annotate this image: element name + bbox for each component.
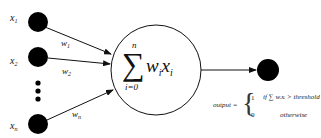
input-node-1 (28, 12, 48, 32)
input-label-x1: x1 (10, 13, 17, 24)
input-node-n (28, 114, 48, 134)
sum-lower-limit: i=0 (125, 82, 138, 92)
input-label-xn: xn (10, 121, 17, 132)
sum-expression: wixi (146, 55, 173, 78)
weight-label-w2: w2 (62, 67, 71, 77)
weight-label-w1: w1 (61, 39, 70, 49)
output-lhs: output = (213, 101, 237, 109)
weight-label-wn: wn (72, 110, 81, 120)
input-label-x2: x2 (10, 56, 17, 67)
summation-formula: n ∑ i=0 wixi (118, 40, 194, 100)
case1-condition: if ∑ wᵢxᵢ > threshold (263, 93, 320, 101)
edge-x1-to-sum (45, 27, 111, 54)
case0-value: 0 (251, 111, 255, 119)
edge-x2-to-sum (48, 58, 110, 64)
case1-value: 1 (251, 94, 255, 102)
sigma-symbol: ∑ (122, 48, 145, 80)
output-equation: output = { 1 if ∑ wᵢxᵢ > threshold 0 oth… (213, 90, 321, 124)
ellipsis-dot (35, 88, 40, 93)
output-node (257, 59, 279, 81)
ellipsis-dot (35, 80, 40, 85)
case0-condition: otherwise (280, 111, 307, 119)
input-node-2 (28, 47, 48, 67)
ellipsis-dot (35, 96, 40, 101)
